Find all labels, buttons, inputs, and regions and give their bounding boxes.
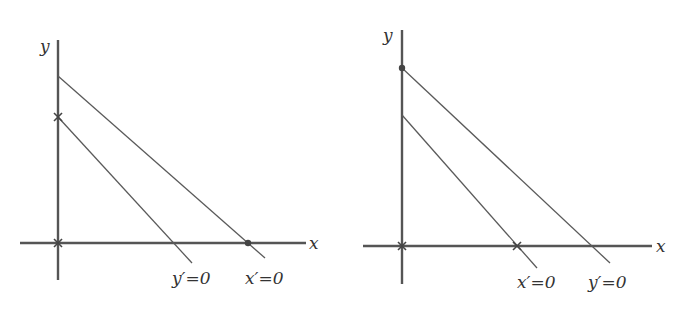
left-lower-nullcline — [58, 117, 192, 263]
left-y-axis-label: y — [39, 36, 50, 56]
right-x-axis-label: x — [656, 236, 666, 256]
left-lower-nullcline-label: y′=0 — [171, 268, 211, 288]
right-lower-nullcline-label: x′=0 — [517, 272, 556, 292]
left-x-axis-label: x — [309, 233, 319, 253]
phase-diagram-figure: y x y′=0 x′=0 y x x′=0 y′=0 — [0, 0, 683, 318]
left-upper-nullcline-label: x′=0 — [245, 268, 284, 288]
right-upper-nullcline-label: y′=0 — [587, 272, 627, 292]
left-panel: y x y′=0 x′=0 — [20, 36, 319, 288]
right-panel: y x x′=0 y′=0 — [363, 25, 666, 292]
left-x-intercept-dot-marker — [245, 240, 251, 246]
right-y-axis-label: y — [382, 25, 393, 45]
right-y-intercept-dot-marker — [399, 65, 405, 71]
